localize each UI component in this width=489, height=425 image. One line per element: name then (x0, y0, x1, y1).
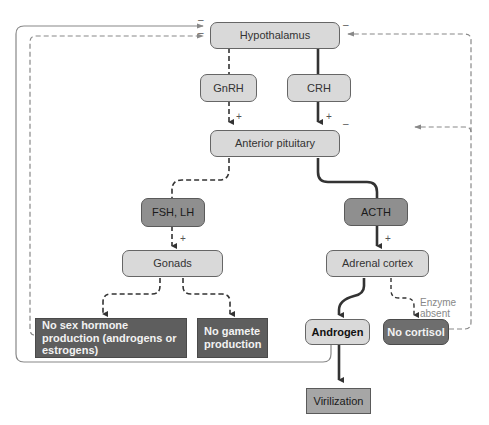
node-crh: CRH (287, 74, 351, 102)
stimulate-sign-fsh-lh: + (180, 233, 186, 244)
node-label: Androgen (312, 326, 364, 339)
node-no-cortisol: No cortisol (383, 319, 449, 345)
node-label: No cortisol (387, 326, 444, 339)
inhibit-sign-sex-hormone: – (198, 27, 204, 38)
node-label: Hypothalamus (240, 29, 310, 42)
note-line: Enzyme (420, 297, 456, 308)
node-gnrh: GnRH (200, 74, 257, 102)
node-label: GnRH (213, 82, 244, 95)
node-label: No sex hormone production (androgens or … (42, 319, 186, 357)
node-label: Anterior pituitary (235, 137, 315, 150)
node-hypothalamus: Hypothalamus (210, 22, 340, 49)
inhibit-sign-androgen: – (198, 14, 204, 25)
node-virilization: Virilization (306, 388, 371, 414)
node-fsh-lh: FSH, LH (141, 198, 205, 227)
note-line: absent (420, 308, 456, 319)
node-label: ACTH (361, 206, 391, 219)
node-no-sex-hormone: No sex hormone production (androgens or … (35, 318, 187, 358)
node-acth: ACTH (344, 198, 408, 226)
node-anterior-pituitary: Anterior pituitary (210, 130, 340, 157)
diagram-connectors (0, 0, 489, 425)
inhibit-sign-cortisol-pituitary: – (343, 118, 349, 129)
node-label: Adrenal cortex (342, 257, 413, 270)
node-gonads: Gonads (122, 250, 223, 277)
stimulate-sign-crh: + (326, 111, 332, 122)
node-label: No gamete production (204, 325, 267, 350)
node-androgen: Androgen (305, 319, 370, 345)
stimulate-sign-gnrh: + (236, 111, 242, 122)
node-label: FSH, LH (152, 206, 194, 219)
node-label: Gonads (153, 257, 192, 270)
inhibit-sign-cortisol-hypothalamus: – (343, 19, 349, 30)
node-label: Virilization (314, 395, 364, 408)
node-label: CRH (307, 82, 331, 95)
node-adrenal-cortex: Adrenal cortex (326, 250, 429, 277)
enzyme-absent-note: Enzyme absent (420, 297, 456, 319)
node-no-gamete: No gamete production (197, 318, 268, 358)
stimulate-sign-acth: + (385, 233, 391, 244)
